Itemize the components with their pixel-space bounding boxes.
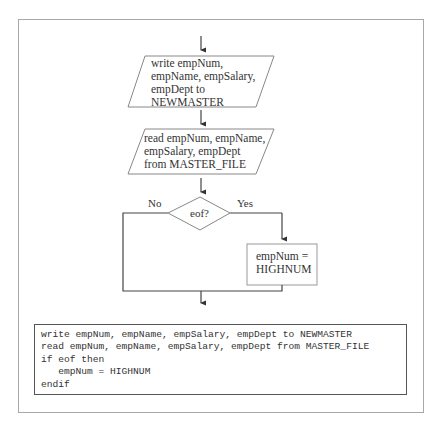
assign-step-text: empNum = HIGHNUM <box>256 250 312 276</box>
decision-label: eof? <box>190 207 209 220</box>
code-line: endif <box>41 379 406 391</box>
read-line: empSalary, empDept <box>144 145 265 158</box>
code-line: if eof then <box>41 354 406 366</box>
no-label: No <box>148 197 161 210</box>
yes-label: Yes <box>237 197 253 210</box>
write-line: write empNum, <box>151 57 255 70</box>
code-line: empNum = HIGHNUM <box>41 366 406 378</box>
code-line: write empNum, empName, empSalary, empDep… <box>41 329 406 341</box>
assign-line: HIGHNUM <box>256 263 312 276</box>
yes-join-line <box>201 285 282 291</box>
write-line: empName, empSalary, <box>151 70 255 83</box>
write-line: NEWMASTER <box>151 96 255 109</box>
read-line: read empNum, empName, <box>144 132 265 145</box>
pseudocode-box: write empNum, empName, empSalary, empDep… <box>34 324 407 395</box>
assign-line: empNum = <box>256 250 312 263</box>
read-line: from MASTER_FILE <box>144 158 265 171</box>
code-line: read empNum, empName, empSalary, empDept… <box>41 341 406 353</box>
write-step-text: write empNum, empName, empSalary, empDep… <box>151 57 255 109</box>
read-step-text: read empNum, empName, empSalary, empDept… <box>144 132 265 171</box>
write-line: empDept to <box>151 83 255 96</box>
